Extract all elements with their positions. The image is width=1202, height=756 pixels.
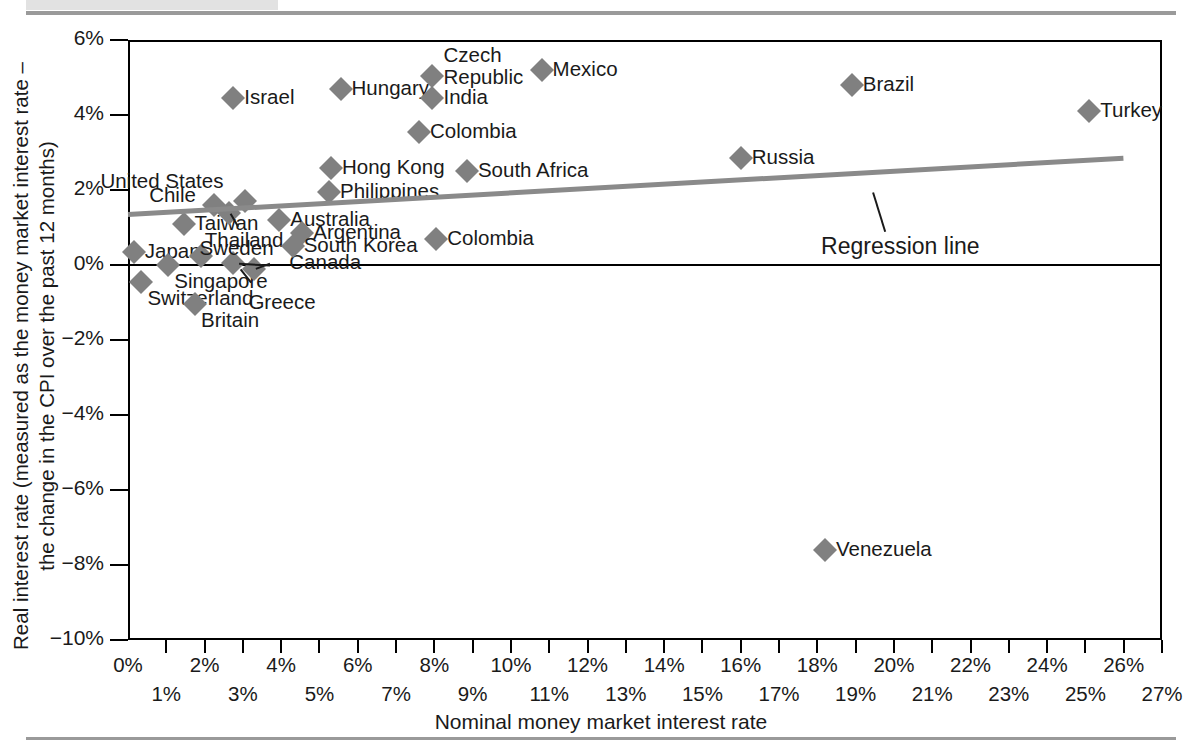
- x-axis-tick-label: 2%: [190, 653, 220, 677]
- data-point-label: Turkey: [1100, 98, 1162, 122]
- y-axis-tick: [110, 489, 128, 491]
- x-axis-tick: [472, 640, 474, 653]
- x-axis-tick-label: 17%: [759, 682, 800, 706]
- regression-line-annotation: Regression line: [821, 233, 980, 260]
- data-point-label: Sweden: [199, 236, 273, 260]
- data-point-label: India: [443, 85, 487, 109]
- data-point-label: South Africa: [478, 158, 589, 182]
- x-axis-tick-label: 15%: [682, 682, 723, 706]
- x-axis-tick: [1084, 640, 1086, 653]
- x-axis-tick-label: 10%: [490, 653, 531, 677]
- x-axis-tick: [740, 640, 742, 653]
- y-axis-tick-label: −4%: [0, 401, 104, 425]
- y-axis-title-line-2: the change in the CPI over the past 12 m…: [34, 36, 60, 676]
- y-axis-tick-label: 2%: [0, 176, 104, 200]
- x-axis-tick-label: 16%: [720, 653, 761, 677]
- data-point-label: Greece: [248, 290, 315, 314]
- data-point-label: Russia: [752, 145, 815, 169]
- x-axis-tick: [931, 640, 933, 653]
- x-axis-tick-label: 11%: [529, 682, 569, 706]
- x-axis-tick: [395, 640, 397, 653]
- bottom-divider-rule: [26, 737, 1176, 740]
- y-axis-tick-label: −2%: [0, 326, 104, 350]
- plot-area-frame: [128, 40, 1162, 640]
- x-axis-tick: [433, 640, 435, 653]
- x-axis-tick: [242, 640, 244, 653]
- y-axis-tick-label: −6%: [0, 476, 104, 500]
- x-axis-tick-label: 12%: [567, 653, 608, 677]
- data-point-label: Mexico: [553, 57, 618, 81]
- zero-baseline: [128, 264, 1162, 266]
- x-axis-tick: [1123, 640, 1125, 653]
- data-point-label: Colombia: [447, 226, 534, 250]
- data-point-label: Brazil: [863, 72, 914, 96]
- x-axis-tick-label: 8%: [420, 653, 450, 677]
- scatter-plot-figure: Real interest rate (measured as the mone…: [0, 0, 1202, 756]
- x-axis-tick-label: 7%: [381, 682, 411, 706]
- x-axis-tick: [778, 640, 780, 653]
- top-divider-rule: [26, 11, 1176, 15]
- x-axis-tick: [816, 640, 818, 653]
- y-axis-tick: [110, 639, 128, 641]
- x-axis-tick-label: 24%: [1027, 653, 1068, 677]
- x-axis-tick: [510, 640, 512, 653]
- x-axis-tick: [701, 640, 703, 653]
- x-axis-tick: [587, 640, 589, 653]
- y-axis-tick: [110, 114, 128, 116]
- x-axis-tick-label: 21%: [912, 682, 953, 706]
- x-axis-title: Nominal money market interest rate: [0, 710, 1202, 734]
- x-axis-tick: [663, 640, 665, 653]
- x-axis-tick-label: 4%: [266, 653, 296, 677]
- y-axis-tick: [110, 414, 128, 416]
- x-axis-tick-label: 23%: [988, 682, 1029, 706]
- x-axis-tick-label: 18%: [797, 653, 838, 677]
- x-axis-tick-label: 0%: [113, 653, 143, 677]
- x-axis-tick: [1161, 640, 1163, 653]
- data-point-label: United States: [100, 169, 223, 193]
- x-axis-tick: [357, 640, 359, 653]
- x-axis-tick-label: 19%: [835, 682, 876, 706]
- data-point-label: Hong Kong: [342, 155, 445, 179]
- x-axis-tick: [625, 640, 627, 653]
- y-axis-tick: [110, 39, 128, 41]
- data-point-label: South Korea: [304, 233, 418, 257]
- x-axis-tick-label: 14%: [644, 653, 685, 677]
- y-axis-title: Real interest rate (measured as the mone…: [8, 36, 60, 676]
- x-axis-tick-label: 5%: [305, 682, 335, 706]
- y-axis-tick-label: −8%: [0, 551, 104, 575]
- data-point-label: Venezuela: [836, 537, 932, 561]
- data-point-label: Hungary: [352, 76, 430, 100]
- data-point-label: CzechRepublic: [443, 44, 523, 88]
- y-axis-title-line-1: Real interest rate (measured as the mone…: [8, 36, 34, 676]
- data-point-label: Colombia: [430, 119, 517, 143]
- y-axis-tick: [110, 564, 128, 566]
- x-axis-tick: [1008, 640, 1010, 653]
- x-axis-tick-label: 20%: [873, 653, 914, 677]
- x-axis-tick-label: 26%: [1103, 653, 1144, 677]
- y-axis-tick: [110, 264, 128, 266]
- x-axis-tick: [893, 640, 895, 653]
- x-axis-tick-label: 6%: [343, 653, 373, 677]
- x-axis-tick: [1046, 640, 1048, 653]
- x-axis-tick: [970, 640, 972, 653]
- x-axis-tick-label: 1%: [151, 682, 181, 706]
- x-axis-tick: [280, 640, 282, 653]
- y-axis-tick-label: 0%: [0, 251, 104, 275]
- y-axis-tick: [110, 339, 128, 341]
- x-axis-tick-label: 27%: [1141, 682, 1182, 706]
- data-point-label: Israel: [244, 85, 294, 109]
- x-axis-tick-label: 13%: [605, 682, 646, 706]
- x-axis-tick-label: 22%: [950, 653, 991, 677]
- x-axis-tick: [318, 640, 320, 653]
- x-axis-tick: [165, 640, 167, 653]
- x-axis-tick: [855, 640, 857, 653]
- y-axis-tick-label: 4%: [0, 101, 104, 125]
- y-axis-tick-label: −10%: [0, 626, 104, 650]
- x-axis-tick: [204, 640, 206, 653]
- header-corner-block: [26, 0, 278, 10]
- x-axis-tick-label: 25%: [1065, 682, 1106, 706]
- x-axis-tick-label: 3%: [228, 682, 258, 706]
- y-axis-tick-label: 6%: [0, 26, 104, 50]
- x-axis-tick-label: 9%: [458, 682, 488, 706]
- x-axis-tick: [548, 640, 550, 653]
